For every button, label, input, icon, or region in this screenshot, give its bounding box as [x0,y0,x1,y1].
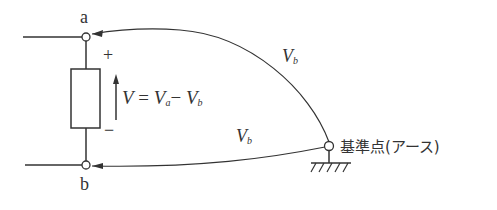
terminal-ground [325,142,334,151]
circuit-diagram [0,0,497,210]
voltage-arrowhead-icon [113,74,119,84]
terminal-b [82,161,90,169]
arrowhead-a-icon [92,30,103,37]
ground-hatch-icon [311,163,348,172]
minus-sign: − [104,120,114,141]
upper-curve-label: Vb [282,46,298,67]
curve-lower [92,147,325,166]
resistor [71,69,100,128]
ground-label: 基準点(アース) [340,135,440,156]
lower-curve-label: Vb [236,126,252,147]
node-a-label: a [80,7,88,28]
plus-sign: + [103,45,113,66]
terminal-a [82,33,90,41]
arrowhead-b-icon [92,163,103,169]
voltage-equation: V = Va− Vb [122,87,203,109]
node-b-label: b [80,174,89,195]
